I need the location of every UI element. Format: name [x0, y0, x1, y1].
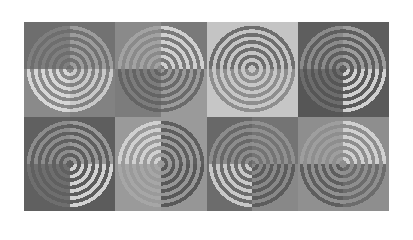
- quarter-ring-tile: [252, 164, 298, 211]
- quarter-ring-tile: [343, 117, 389, 164]
- quarter-ring-tile: [298, 69, 344, 116]
- quarter-ring-tile: [115, 22, 161, 69]
- quarter-ring-tile: [70, 164, 116, 211]
- quarter-ring-tile: [70, 69, 116, 116]
- tile-outer-fill: [161, 22, 207, 69]
- tile-outer-fill: [298, 164, 344, 211]
- quarter-ring-tile: [24, 69, 70, 116]
- tile-outer-fill: [252, 117, 298, 164]
- quarter-ring-tile: [298, 164, 344, 211]
- tile-outer-fill: [24, 164, 70, 211]
- quarter-ring-tile: [70, 22, 116, 69]
- tile-outer-fill: [343, 69, 389, 116]
- tile-outer-fill: [70, 22, 116, 69]
- tile-outer-fill: [343, 164, 389, 211]
- quarter-ring-tile: [115, 117, 161, 164]
- quarter-ring-tile: [252, 69, 298, 116]
- quarter-ring-tile: [24, 22, 70, 69]
- tile-outer-fill: [252, 22, 298, 69]
- tile-outer-fill: [343, 22, 389, 69]
- tile-outer-fill: [343, 117, 389, 164]
- quarter-ring-tile: [207, 164, 253, 211]
- tile-outer-fill: [252, 69, 298, 116]
- tile-outer-fill: [207, 164, 253, 211]
- tile-outer-fill: [24, 117, 70, 164]
- tile-outer-fill: [298, 117, 344, 164]
- tile-outer-fill: [115, 164, 161, 211]
- quarter-ring-tile: [24, 117, 70, 164]
- tile-outer-fill: [70, 69, 116, 116]
- tile-outer-fill: [115, 117, 161, 164]
- quarter-ring-tile: [161, 69, 207, 116]
- tile-outer-fill: [161, 164, 207, 211]
- tile-outer-fill: [207, 22, 253, 69]
- quarter-ring-tile: [252, 22, 298, 69]
- quarter-ring-tile: [207, 69, 253, 116]
- quarter-ring-tile: [161, 22, 207, 69]
- quarter-ring-tile: [24, 164, 70, 211]
- tile-outer-fill: [70, 164, 116, 211]
- tile-outer-fill: [24, 22, 70, 69]
- quarter-ring-tile: [161, 164, 207, 211]
- quarter-ring-tile: [115, 164, 161, 211]
- tile-outer-fill: [161, 117, 207, 164]
- quarter-ring-tile: [298, 22, 344, 69]
- quarter-ring-tile: [161, 117, 207, 164]
- tile-outer-fill: [70, 117, 116, 164]
- quarter-ring-tile: [343, 164, 389, 211]
- quarter-ring-tile: [207, 117, 253, 164]
- tile-outer-fill: [207, 69, 253, 116]
- quarter-ring-tile: [298, 117, 344, 164]
- tile-outer-fill: [207, 117, 253, 164]
- quarter-ring-tile: [207, 22, 253, 69]
- tile-outer-fill: [298, 69, 344, 116]
- quarter-ring-tile: [252, 117, 298, 164]
- tile-outer-fill: [115, 22, 161, 69]
- tile-outer-fill: [24, 69, 70, 116]
- quarter-ring-tile: [115, 69, 161, 116]
- ring-pattern-grid: [24, 22, 389, 211]
- tile-outer-fill: [252, 164, 298, 211]
- tile-outer-fill: [161, 69, 207, 116]
- quarter-ring-tile: [343, 22, 389, 69]
- quarter-ring-tile: [70, 117, 116, 164]
- tile-outer-fill: [115, 69, 161, 116]
- tile-outer-fill: [298, 22, 344, 69]
- quarter-ring-tile: [343, 69, 389, 116]
